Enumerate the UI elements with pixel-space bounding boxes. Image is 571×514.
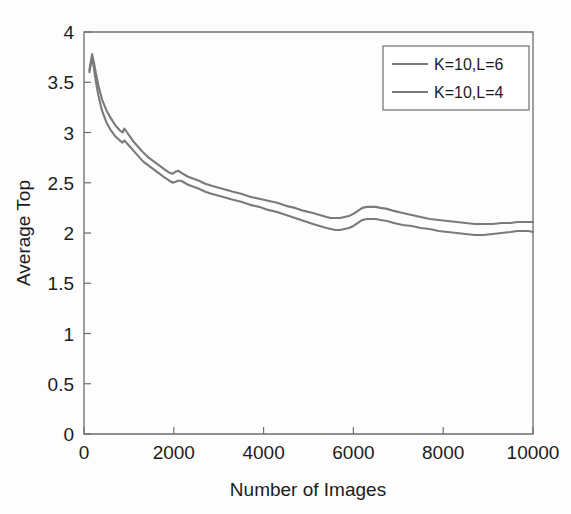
y-axis-tick-labels: 00.511.522.533.54 <box>48 22 75 445</box>
legend-label-k10l4: K=10,L=4 <box>434 84 504 101</box>
x-axis-tick-labels: 0200040006000800010000 <box>79 442 560 463</box>
y-axis-title: Average Top <box>13 180 34 286</box>
chart-plot: 0200040006000800010000 00.511.522.533.54… <box>0 0 571 514</box>
x-tick-label-8000: 8000 <box>422 442 464 463</box>
x-axis-ticks <box>84 427 533 434</box>
y-tick-label-1.5: 1.5 <box>48 273 74 294</box>
y-tick-label-3.5: 3.5 <box>48 72 74 93</box>
x-tick-label-0: 0 <box>79 442 90 463</box>
y-tick-label-0: 0 <box>63 424 74 445</box>
x-tick-label-6000: 6000 <box>332 442 374 463</box>
y-tick-label-0.5: 0.5 <box>48 374 74 395</box>
y-tick-label-4: 4 <box>63 22 74 43</box>
legend-label-k10l6: K=10,L=6 <box>434 56 504 73</box>
x-tick-label-10000: 10000 <box>507 442 560 463</box>
y-tick-label-2.5: 2.5 <box>48 173 74 194</box>
chart-legend: K=10,L=6 K=10,L=4 <box>383 46 529 110</box>
x-tick-label-4000: 4000 <box>242 442 284 463</box>
x-axis-title: Number of Images <box>230 479 386 500</box>
y-axis-ticks <box>84 32 91 434</box>
x-tick-label-2000: 2000 <box>153 442 195 463</box>
y-tick-label-3: 3 <box>63 123 74 144</box>
y-tick-label-1: 1 <box>63 324 74 345</box>
y-tick-label-2: 2 <box>63 223 74 244</box>
figure-canvas: 0200040006000800010000 00.511.522.533.54… <box>0 0 571 514</box>
